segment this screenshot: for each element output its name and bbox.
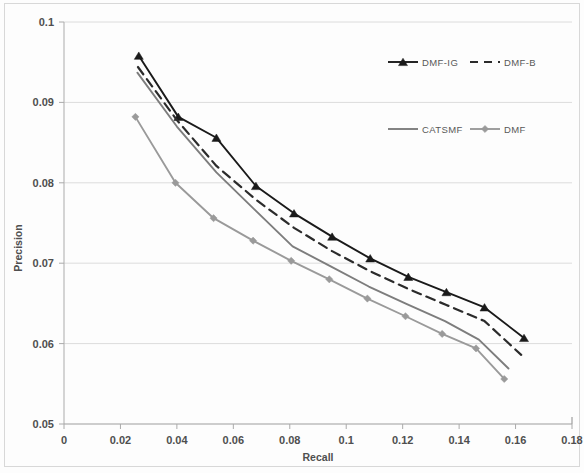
data-point-marker-triangle [404, 273, 413, 280]
x-tick-label: 0.12 [392, 434, 413, 446]
x-tick-label: 0.1 [339, 434, 354, 446]
series-line [135, 117, 504, 379]
data-point-marker-diamond [481, 125, 488, 132]
y-axis-title: Precision [12, 224, 24, 271]
series-line [139, 56, 524, 338]
data-point-marker-diamond [439, 330, 446, 337]
data-point-marker-diamond [326, 276, 333, 283]
legend-label: DMF [504, 124, 526, 135]
chart-legend: DMF-IGDMF-BCATSMFDMF [388, 57, 536, 135]
x-tick-label: 0.06 [223, 434, 244, 446]
x-axis-tick-labels: 00.020.040.060.080.10.120.140.160.18 [61, 434, 583, 446]
data-series [132, 113, 508, 382]
data-point-marker-triangle [134, 52, 143, 59]
x-axis-ticks [64, 424, 572, 429]
x-tick-label: 0.02 [110, 434, 131, 446]
y-tick-label: 0.1 [39, 16, 54, 28]
legend-label: DMF-B [504, 57, 536, 68]
legend-item: CATSMF [388, 124, 463, 135]
x-tick-label: 0.18 [561, 434, 582, 446]
data-series-layer [132, 52, 529, 383]
data-point-marker-triangle [442, 288, 451, 295]
data-point-marker-diamond [364, 295, 371, 302]
axis-lines [64, 22, 572, 424]
x-tick-label: 0.16 [505, 434, 526, 446]
series-line [137, 73, 508, 369]
y-tick-label: 0.06 [33, 338, 54, 350]
data-point-marker-diamond [402, 313, 409, 320]
y-tick-label: 0.07 [33, 257, 54, 269]
y-tick-label: 0.08 [33, 177, 54, 189]
x-tick-label: 0 [61, 434, 67, 446]
data-series [134, 52, 528, 342]
y-tick-label: 0.05 [33, 418, 54, 430]
data-series [138, 67, 521, 355]
series-line [138, 67, 521, 355]
legend-item: DMF [470, 124, 526, 135]
data-series [137, 73, 508, 369]
y-axis-tick-labels: 0.050.060.070.080.090.1 [33, 16, 54, 430]
legend-item: DMF-IG [388, 57, 458, 68]
precision-recall-chart: 00.020.040.060.080.10.120.140.160.18 0.0… [0, 0, 584, 473]
x-tick-label: 0.14 [448, 434, 470, 446]
y-axis-ticks [59, 22, 64, 424]
x-tick-label: 0.04 [166, 434, 188, 446]
y-tick-label: 0.09 [33, 96, 54, 108]
legend-item: DMF-B [470, 57, 536, 68]
chart-canvas: 00.020.040.060.080.10.120.140.160.18 0.0… [0, 0, 584, 473]
data-point-marker-triangle [480, 304, 489, 311]
legend-label: CATSMF [422, 124, 463, 135]
x-tick-label: 0.08 [279, 434, 300, 446]
legend-label: DMF-IG [422, 57, 458, 68]
x-axis-title: Recall [303, 451, 334, 463]
